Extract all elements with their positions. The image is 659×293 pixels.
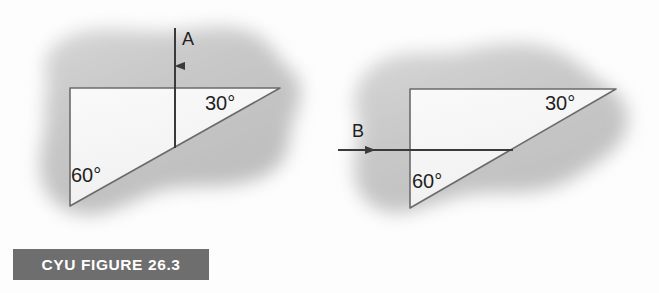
angle-label-60-left: 60° <box>71 164 101 186</box>
panel-left: A 30° 60° <box>40 27 301 214</box>
figure-caption-bar: CYU FIGURE 26.3 <box>13 249 209 280</box>
panel-right: B 30° 60° <box>338 44 628 213</box>
arrow-a-label: A <box>182 29 194 49</box>
figure-page: A 30° 60° B 30° 60° CYU FIGURE 26.3 <box>0 0 659 293</box>
figure-caption-text: CYU FIGURE 26.3 <box>41 256 180 274</box>
angle-label-30-right: 30° <box>545 92 575 114</box>
angle-label-60-right: 60° <box>412 170 442 192</box>
angle-label-30-left: 30° <box>205 92 235 114</box>
arrow-b-label: B <box>352 121 364 141</box>
